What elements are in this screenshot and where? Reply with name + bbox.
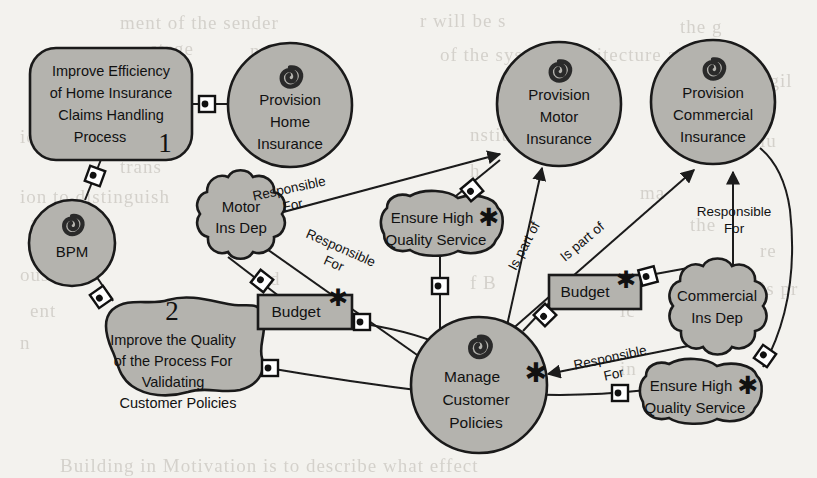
node-label-line: Ins Dep bbox=[691, 309, 743, 326]
node-motor-ins-dep[interactable]: Motor Ins Dep bbox=[197, 170, 285, 259]
edge-label-responsible-for-comm-managecp: Responsible For bbox=[572, 343, 651, 390]
asterisk-icon: ✱ bbox=[328, 284, 348, 312]
edge-ehqs2-provcomm bbox=[760, 148, 792, 367]
diagram-canvas: ment of the senderr will be sstagen a p … bbox=[0, 0, 817, 478]
node-label-line: Insurance bbox=[257, 135, 323, 152]
node-commercial-ins-dep[interactable]: Commercial Ins Dep bbox=[669, 259, 766, 355]
connector-glyph bbox=[354, 314, 370, 330]
node-label-line: Improve the Quality bbox=[110, 332, 236, 348]
asterisk-icon: ✱ bbox=[616, 266, 636, 294]
node-label-line: Budget bbox=[271, 303, 321, 320]
diagram-svg: Improve Efficiency of Home Insurance Cla… bbox=[0, 0, 817, 478]
node-label-line: Budget bbox=[560, 283, 610, 300]
asterisk-icon: ✱ bbox=[479, 203, 500, 232]
node-label-line: Claims Handling bbox=[58, 107, 164, 123]
node-label-line: Ensure High bbox=[650, 377, 733, 394]
edge-label-is-part-of-motor: Is part of bbox=[505, 219, 543, 273]
node-label-line: Quality Service bbox=[645, 399, 746, 416]
node-goal-improve-quality-validating[interactable]: 2 Improve the Quality of the Process For… bbox=[106, 296, 264, 411]
node-manage-customer-policies[interactable]: Manage Customer Policies ✱ bbox=[411, 317, 547, 453]
node-label-line: Ins Dep bbox=[215, 219, 267, 236]
node-label-line: Policies bbox=[449, 414, 503, 431]
asterisk-icon: ✱ bbox=[525, 357, 548, 388]
connector-glyph bbox=[262, 360, 278, 376]
node-ensure-high-quality-service-motor[interactable]: Ensure High Quality Service ✱ bbox=[381, 191, 503, 256]
node-label-line: Process bbox=[74, 129, 126, 145]
connector-glyph bbox=[612, 385, 628, 401]
edge-label-line: Responsible bbox=[697, 204, 771, 219]
node-goal-improve-efficiency[interactable]: Improve Efficiency of Home Insurance Cla… bbox=[30, 48, 192, 160]
node-label-line: Customer Policies bbox=[120, 395, 237, 411]
node-label-line: Provision bbox=[259, 91, 321, 108]
node-provision-commercial-insurance[interactable]: Provision Commercial Insurance bbox=[651, 40, 775, 164]
node-label-line: Improve Efficiency bbox=[52, 63, 171, 79]
node-provision-home-insurance[interactable]: Provision Home Insurance bbox=[228, 43, 352, 167]
node-label-line: BPM bbox=[56, 243, 89, 260]
node-label-line: Customer bbox=[442, 391, 509, 408]
node-label-line: Insurance bbox=[680, 128, 746, 145]
connector-glyph bbox=[638, 266, 658, 286]
node-label-line: Provision bbox=[682, 84, 744, 101]
edge-label-line: Is part of bbox=[505, 219, 543, 273]
edge-label-responsible-for-motor-managecp: Responsible For bbox=[297, 226, 378, 285]
asterisk-icon: ✱ bbox=[738, 371, 759, 400]
node-label-line: of Home Insurance bbox=[50, 85, 173, 101]
node-label-line: Provision bbox=[528, 86, 590, 103]
node-ensure-high-quality-service-commercial[interactable]: Ensure High Quality Service ✱ bbox=[640, 359, 762, 424]
edge-label-line: For bbox=[602, 365, 625, 384]
edge-label-line: For bbox=[724, 221, 745, 236]
node-label-line: Commercial bbox=[673, 106, 753, 123]
node-label-line: Insurance bbox=[526, 130, 592, 147]
edge-goal2-managecp bbox=[262, 367, 432, 392]
node-label-line: of the Process For bbox=[114, 353, 233, 369]
node-label-line: Motor bbox=[540, 108, 578, 125]
node-label-line: Commercial bbox=[677, 287, 757, 304]
node-budget-right[interactable]: Budget ✱ bbox=[549, 266, 641, 309]
connector-glyph bbox=[85, 166, 106, 187]
annotation-number-1: 1 bbox=[158, 128, 172, 158]
node-label-line: Validating bbox=[142, 374, 205, 390]
node-label-line: Home bbox=[270, 113, 310, 130]
connector-glyph bbox=[432, 278, 448, 294]
node-provision-motor-insurance[interactable]: Provision Motor Insurance bbox=[497, 42, 621, 166]
node-label-line: Ensure High bbox=[391, 209, 474, 226]
node-label-line: Quality Service bbox=[386, 231, 487, 248]
annotation-number-2: 2 bbox=[165, 296, 179, 326]
connector-glyph bbox=[199, 96, 215, 112]
connector-glyph bbox=[90, 286, 112, 308]
edge-label-line: For bbox=[281, 196, 304, 215]
edge-label-is-part-of-commercial: Is part of bbox=[557, 219, 607, 264]
edge-label-line: Is part of bbox=[557, 219, 607, 264]
node-bpm[interactable]: BPM bbox=[29, 200, 115, 286]
node-label-line: Manage bbox=[444, 368, 500, 385]
